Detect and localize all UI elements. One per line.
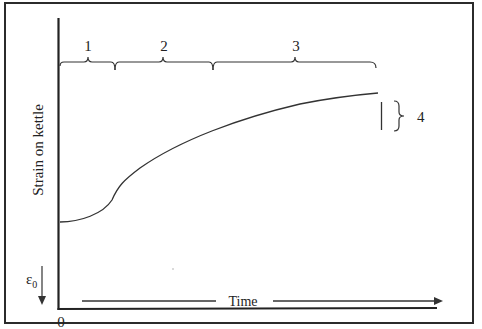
- stage-braces: [60, 57, 376, 70]
- right-arrow-icon: [434, 297, 443, 305]
- speck: [172, 268, 174, 270]
- strain-curve: [60, 93, 378, 222]
- strain-time-chart: 1 2 3 4 Strain on kettle ε0 0 Time: [0, 0, 482, 329]
- stage-2-label: 2: [160, 38, 168, 54]
- stage-3-label: 3: [292, 38, 300, 54]
- down-arrow-icon: [38, 296, 46, 305]
- brace-stage-3: [213, 57, 376, 70]
- brace-stage-4: [394, 101, 404, 131]
- origin-label: 0: [57, 314, 65, 329]
- stage-1-label: 1: [84, 38, 92, 54]
- brace-stage-2: [115, 57, 213, 70]
- y-axis-label: Strain on kettle: [30, 104, 46, 196]
- brace-stage-1: [60, 57, 115, 70]
- epsilon-label: ε0: [26, 271, 37, 290]
- x-axis-label: Time: [228, 294, 257, 309]
- stage-4-label: 4: [417, 109, 425, 125]
